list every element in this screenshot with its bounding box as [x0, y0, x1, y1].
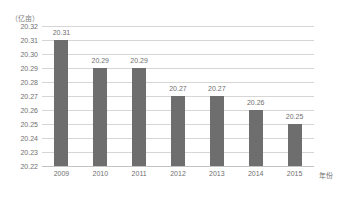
y-axis-tick-label: 20.23	[0, 149, 38, 156]
bar-slot: 20.25	[275, 26, 314, 166]
y-axis-tick-label: 20.29	[0, 65, 38, 72]
x-axis-title: 年份	[319, 170, 333, 180]
bar	[210, 96, 224, 166]
x-axis-tick-label: 2012	[170, 170, 186, 177]
plot-area: 20.3120.2920.2920.2720.2720.2620.25	[42, 26, 314, 166]
bar-value-label: 20.29	[92, 57, 110, 64]
bar-value-label: 20.26	[247, 99, 265, 106]
bar-value-label: 20.29	[130, 57, 148, 64]
y-axis-tick-label: 20.22	[0, 163, 38, 170]
y-axis-tick-label: 20.24	[0, 135, 38, 142]
x-axis-tick-label: 2009	[54, 170, 70, 177]
bar	[93, 68, 107, 166]
bar-series: 20.3120.2920.2920.2720.2720.2620.25	[42, 26, 314, 166]
y-axis-tick-label: 20.32	[0, 23, 38, 30]
y-axis-unit-label: （亿亩）	[11, 13, 39, 23]
bar-slot: 20.27	[197, 26, 236, 166]
bar-slot: 20.26	[236, 26, 275, 166]
y-axis-tick-label: 20.26	[0, 107, 38, 114]
y-axis-tick-label: 20.27	[0, 93, 38, 100]
y-axis-tick-label: 20.25	[0, 121, 38, 128]
bar-value-label: 20.31	[53, 29, 71, 36]
bar-chart: （亿亩） 20.3120.2920.2920.2720.2720.2620.25…	[0, 0, 339, 198]
bar-value-label: 20.27	[208, 85, 226, 92]
x-axis-tick-label: 2010	[92, 170, 108, 177]
bar	[249, 110, 263, 166]
x-axis-tick-label: 2013	[209, 170, 225, 177]
bar-slot: 20.29	[120, 26, 159, 166]
bar	[171, 96, 185, 166]
bar-slot: 20.29	[81, 26, 120, 166]
x-axis-tick-label: 2014	[248, 170, 264, 177]
y-axis-tick-label: 20.30	[0, 51, 38, 58]
y-axis-tick-label: 20.28	[0, 79, 38, 86]
bar	[54, 40, 68, 166]
bar-value-label: 20.25	[286, 113, 304, 120]
axis-baseline	[42, 166, 314, 167]
bar	[132, 68, 146, 166]
x-axis-tick-label: 2011	[132, 170, 147, 177]
bar	[288, 124, 302, 166]
bar-slot: 20.31	[42, 26, 81, 166]
y-axis-tick-label: 20.31	[0, 37, 38, 44]
bar-value-label: 20.27	[169, 85, 187, 92]
bar-slot: 20.27	[159, 26, 198, 166]
x-axis-tick-label: 2015	[287, 170, 303, 177]
